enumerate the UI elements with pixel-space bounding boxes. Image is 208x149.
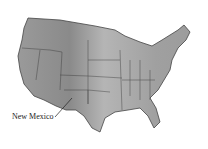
us-relief-map (0, 0, 208, 149)
state-label-new-mexico: New Mexico (12, 112, 54, 121)
